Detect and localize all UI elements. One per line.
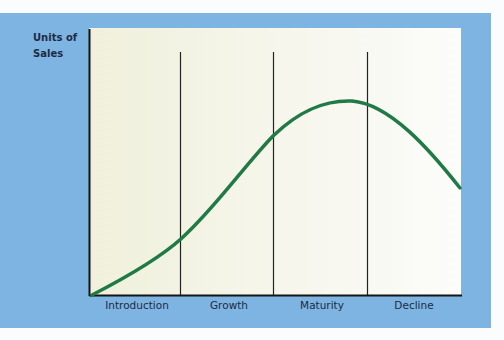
- stage-label-growth: Growth: [182, 299, 276, 311]
- stage-label-decline: Decline: [367, 299, 461, 311]
- stage-label-maturity: Maturity: [275, 299, 369, 311]
- sales-curve: [92, 101, 460, 295]
- product-life-cycle-chart: [0, 0, 504, 340]
- stage-label-introduction: Introduction: [90, 299, 184, 311]
